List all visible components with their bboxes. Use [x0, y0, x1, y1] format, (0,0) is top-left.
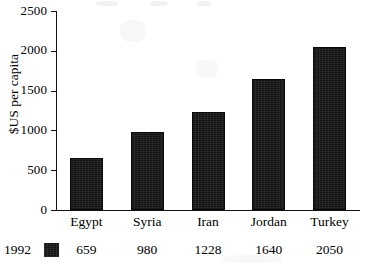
bar-syria[interactable] — [131, 132, 164, 210]
bar-slot-egypt — [56, 11, 117, 210]
x-label-iran: Iran — [178, 213, 239, 231]
scan-artifact — [196, 1, 212, 6]
data-value-turkey: 2050 — [299, 241, 360, 259]
bar-slot-syria — [117, 11, 178, 210]
bar-slot-jordan — [238, 11, 299, 210]
x-axis-tick-labels: Egypt Syria Iran Jordan Turkey — [56, 213, 360, 233]
y-tick-label-1500: 1500 — [0, 83, 47, 96]
scan-artifact — [150, 1, 168, 6]
data-value-iran: 1228 — [178, 241, 239, 259]
y-tick-label-500: 500 — [0, 163, 47, 176]
scan-artifact — [96, 1, 118, 6]
y-tick-label-0: 0 — [0, 203, 47, 216]
bar-turkey[interactable] — [313, 47, 346, 210]
data-value-syria: 980 — [117, 241, 178, 259]
y-tick-label-2500: 2500 — [0, 4, 47, 17]
bar-jordan[interactable] — [252, 79, 285, 210]
x-label-syria: Syria — [117, 213, 178, 231]
bar-slot-turkey — [299, 11, 360, 210]
data-value-jordan: 1640 — [238, 241, 299, 259]
data-value-egypt: 659 — [56, 241, 117, 259]
y-tick-0 — [51, 210, 57, 211]
legend-data-row: 1992 659 980 1228 1640 2050 — [0, 239, 371, 261]
bar-egypt[interactable] — [70, 158, 103, 210]
chart-page: $US per capita 0 500 1000 1500 2000 2500… — [0, 0, 371, 265]
x-label-egypt: Egypt — [56, 213, 117, 231]
legend-series-label: 1992 — [4, 241, 31, 259]
x-label-jordan: Jordan — [238, 213, 299, 231]
bar-iran[interactable] — [192, 112, 225, 210]
legend-values: 659 980 1228 1640 2050 — [56, 241, 360, 259]
x-label-turkey: Turkey — [299, 213, 360, 231]
bar-series-1992 — [56, 11, 360, 210]
bar-slot-iran — [178, 11, 239, 210]
y-tick-label-1000: 1000 — [0, 123, 47, 136]
y-tick-label-2000: 2000 — [0, 43, 47, 56]
x-axis-line — [56, 210, 360, 211]
